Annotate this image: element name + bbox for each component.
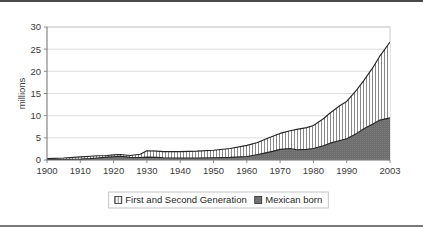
x-tick-label: 1930 [136, 165, 157, 176]
y-tick-label: 25 [30, 44, 41, 55]
legend-swatch-first-and-second-generation [115, 197, 122, 204]
x-tick-label: 1980 [303, 165, 324, 176]
x-axis-ticks: 1900191019201930194019501960197019801990… [36, 160, 400, 176]
x-tick-label: 1920 [103, 165, 124, 176]
x-tick-label: 1910 [70, 165, 91, 176]
x-tick-label: 1960 [236, 165, 257, 176]
legend-label-first-and-second-generation: First and Second Generation [125, 194, 246, 205]
x-tick-label: 1950 [203, 165, 224, 176]
chart-figure: 051015202530 190019101920193019401950196… [0, 0, 423, 227]
x-tick-label: 1970 [270, 165, 291, 176]
x-tick-label: 1940 [170, 165, 191, 176]
y-axis-ticks: 051015202530 [30, 21, 47, 165]
legend-swatch-mexican-born [255, 197, 262, 204]
x-tick-label: 2003 [379, 165, 400, 176]
x-tick-label: 1990 [336, 165, 357, 176]
legend-label-mexican-born: Mexican born [265, 194, 322, 205]
y-axis-title: millions [16, 77, 27, 109]
y-tick-label: 15 [30, 88, 41, 99]
y-tick-label: 0 [36, 154, 41, 165]
y-tick-label: 20 [30, 66, 41, 77]
y-tick-label: 10 [30, 110, 41, 121]
series-areas [47, 42, 390, 160]
x-tick-label: 1900 [36, 165, 57, 176]
population-area-chart: 051015202530 190019101920193019401950196… [0, 2, 423, 227]
y-tick-label: 30 [30, 21, 41, 32]
y-tick-label: 5 [36, 132, 41, 143]
chart-legend: First and Second Generation Mexican born [109, 192, 329, 208]
